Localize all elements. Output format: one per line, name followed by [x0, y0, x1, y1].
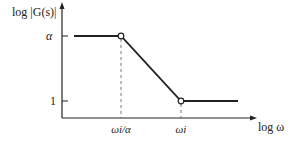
x-axis-label: log ω [258, 120, 284, 134]
bode-magnitude-diagram: log |G(s)| α 1 ωi/α ωi log ω [0, 0, 296, 141]
y-tick-one-label: 1 [50, 94, 56, 108]
y-axis-arrow-icon [60, 2, 65, 9]
x-axis-arrow-icon [250, 116, 257, 121]
y-axis-label: log |G(s)| [12, 5, 56, 19]
x-tick-first-label: ωi/α [111, 123, 131, 135]
breakpoint-second [178, 98, 184, 104]
y-tick-alpha-label: α [46, 29, 53, 43]
x-tick-second-label: ωi [176, 123, 187, 135]
breakpoint-first [118, 33, 124, 39]
magnitude-curve [74, 36, 238, 101]
